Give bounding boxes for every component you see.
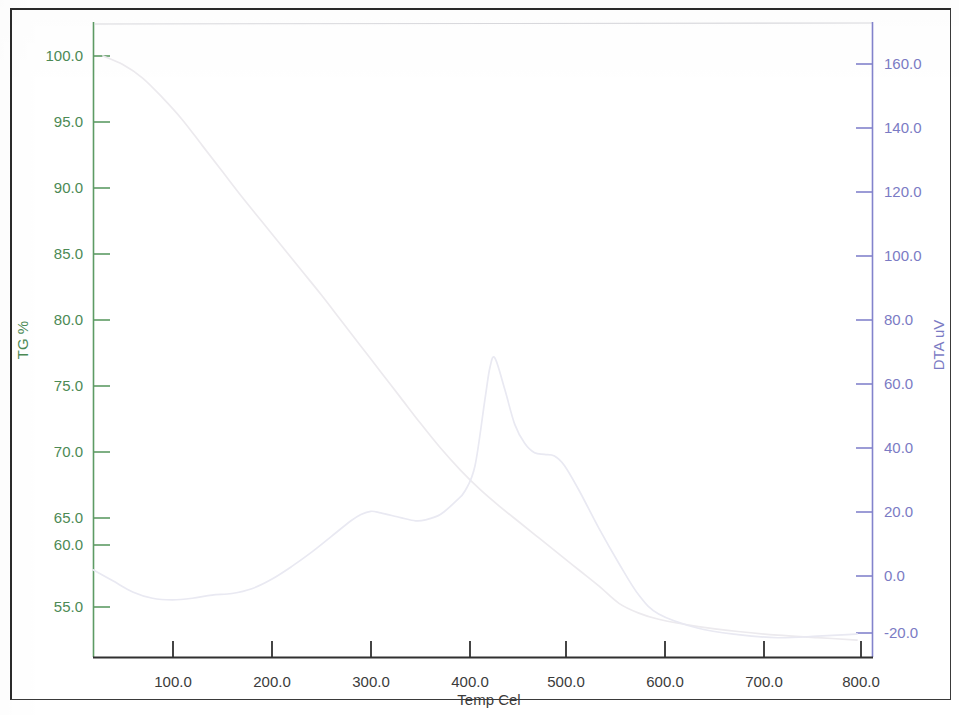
right-tick-label-5: 60.0	[884, 375, 913, 392]
left-tick-label-0: 100.0	[45, 47, 83, 64]
bottom-tick-label-3: 400.0	[451, 673, 489, 690]
right-axis-title: DTA uV	[930, 320, 947, 371]
right-tick-label-8: 0.0	[884, 567, 905, 584]
right-tick-label-4: 80.0	[884, 311, 913, 328]
bottom-tick-label-5: 600.0	[646, 673, 684, 690]
right-tick-label-7: 20.0	[884, 503, 913, 520]
right-tick-label-2: 120.0	[884, 183, 922, 200]
left-tick-label-3: 85.0	[54, 245, 83, 262]
right-tick-label-0: 160.0	[884, 55, 922, 72]
bottom-tick-label-0: 100.0	[154, 673, 192, 690]
left-tick-label-9: 55.0	[54, 598, 83, 615]
left-axis-title: TG %	[14, 321, 31, 359]
left-tick-label-8: 60.0	[54, 536, 83, 553]
left-tick-label-6: 70.0	[54, 443, 83, 460]
left-axis: 100.0 95.0 90.0 85.0 80.0 75.0 70.0 65.0…	[14, 22, 110, 657]
bottom-axis-title: Temp Cel	[457, 691, 520, 708]
left-tick-label-1: 95.0	[54, 113, 83, 130]
right-tick-label-1: 140.0	[884, 119, 922, 136]
left-tick-label-4: 80.0	[54, 311, 83, 328]
top-baseline-artifact	[95, 23, 872, 24]
bottom-tick-label-7: 800.0	[842, 673, 880, 690]
thermal-analysis-figure: 100.0 95.0 90.0 85.0 80.0 75.0 70.0 65.0…	[0, 0, 959, 715]
bottom-tick-label-6: 700.0	[745, 673, 783, 690]
right-tick-label-3: 100.0	[884, 247, 922, 264]
plot-canvas: 100.0 95.0 90.0 85.0 80.0 75.0 70.0 65.0…	[0, 0, 959, 715]
tg-curve	[103, 56, 857, 640]
bottom-tick-label-4: 500.0	[547, 673, 585, 690]
right-tick-label-9: -20.0	[884, 624, 918, 641]
left-tick-label-7: 65.0	[54, 509, 83, 526]
left-tick-label-2: 90.0	[54, 179, 83, 196]
right-tick-label-6: 40.0	[884, 439, 913, 456]
dta-curve	[93, 357, 857, 638]
left-tick-label-5: 75.0	[54, 377, 83, 394]
bottom-tick-label-2: 300.0	[352, 673, 390, 690]
right-axis: 160.0 140.0 120.0 100.0 80.0 60.0 40.0 2…	[856, 22, 947, 657]
bottom-axis: 100.0 200.0 300.0 400.0 500.0 600.0 700.…	[93, 641, 880, 708]
bottom-tick-label-1: 200.0	[253, 673, 291, 690]
